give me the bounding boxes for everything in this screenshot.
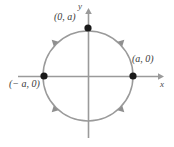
point-left <box>40 72 47 79</box>
label-left-point: (− a, 0) <box>9 79 40 89</box>
x-axis-label: x <box>160 80 164 89</box>
direction-arrow-icon-lower-left <box>49 105 58 114</box>
point-right <box>129 72 136 79</box>
y-axis-arrowhead-icon <box>85 8 92 14</box>
circle-parametric-figure: (0, a) (a, 0) (− a, 0) y x <box>0 0 174 147</box>
direction-arrow-icon-lower-right <box>117 105 126 114</box>
label-right-point: (a, 0) <box>132 54 154 64</box>
point-top <box>84 24 91 31</box>
figure-canvas <box>0 0 174 147</box>
direction-arrow-icon-upper-left <box>49 37 58 46</box>
y-axis-label: y <box>78 2 82 11</box>
label-top-point: (0, a) <box>54 12 76 22</box>
direction-arrow-icon-upper-right <box>117 37 126 46</box>
